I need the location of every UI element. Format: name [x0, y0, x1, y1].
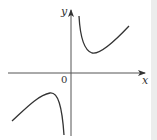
y-axis-label: y	[60, 5, 68, 18]
origin-label: 0	[61, 74, 67, 85]
x-axis-label: x	[142, 74, 149, 87]
curve-lower-left-branch	[12, 93, 64, 135]
function-graph: y x 0	[0, 0, 157, 140]
curve-upper-right-branch	[79, 16, 129, 53]
